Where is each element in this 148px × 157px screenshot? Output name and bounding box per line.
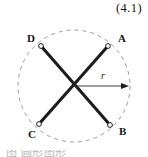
circle-chord-diagram: A B C D r [0, 0, 148, 157]
vertex-label-d: D [27, 32, 35, 44]
figure-container: (4.1) A B C D r 图 圆形图形 [0, 0, 148, 157]
vertex-marker-c [37, 122, 42, 127]
vertex-marker-d [39, 44, 44, 49]
radius-arrowhead-icon [121, 83, 129, 89]
caption-strip: 图 圆形图形 [0, 150, 148, 157]
vertex-label-c: C [28, 128, 36, 140]
vertex-label-b: B [119, 125, 127, 137]
figure-caption: 图 圆形图形 [6, 150, 67, 157]
vertex-label-a: A [118, 32, 126, 44]
radius-label: r [101, 70, 105, 81]
vertex-marker-b [108, 123, 113, 128]
vertex-marker-a [106, 44, 111, 49]
